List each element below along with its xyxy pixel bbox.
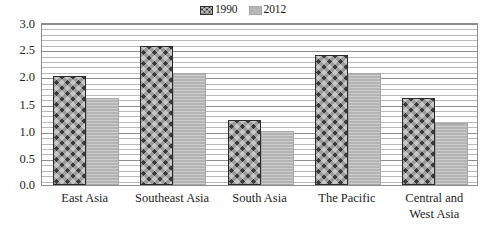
- bar-group: [228, 24, 294, 185]
- x-tick-label: The Pacific: [303, 190, 390, 206]
- bar-1990[interactable]: [53, 76, 86, 185]
- y-tick-label: 1.0: [19, 125, 35, 138]
- y-tick-label: 0.5: [19, 153, 35, 166]
- y-tick-label: 1.5: [19, 98, 35, 111]
- bar-2012[interactable]: [261, 131, 294, 185]
- bar-group: [315, 24, 381, 185]
- bar-2012[interactable]: [435, 123, 468, 185]
- y-tick-label: 2.5: [19, 44, 35, 57]
- bar-2012[interactable]: [173, 73, 206, 185]
- bars-layer: [42, 24, 477, 185]
- plot-area: [41, 23, 478, 186]
- bar-2012[interactable]: [86, 98, 119, 185]
- legend-label-2012: 2012: [264, 4, 287, 16]
- x-tick-label: South Asia: [216, 190, 303, 206]
- bar-2012[interactable]: [348, 73, 381, 185]
- bar-1990[interactable]: [140, 46, 173, 185]
- bar-group: [140, 24, 206, 185]
- y-tick-label: 0.0: [19, 179, 35, 192]
- bar-group: [53, 24, 119, 185]
- legend-item-2012[interactable]: 2012: [249, 4, 287, 16]
- legend-swatch-1990-icon: [200, 6, 213, 15]
- y-axis: 3.02.52.01.51.00.50.0: [0, 23, 38, 186]
- bar-group: [402, 24, 468, 185]
- legend-label-1990: 1990: [215, 4, 238, 16]
- chart-legend: 1990 2012: [0, 2, 486, 18]
- x-tick-label: Central and West Asia: [391, 190, 478, 222]
- y-tick-label: 2.0: [19, 71, 35, 84]
- y-tick-label: 3.0: [19, 18, 35, 31]
- legend-item-1990[interactable]: 1990: [200, 4, 238, 16]
- bar-1990[interactable]: [402, 98, 435, 185]
- x-tick-label: Southeast Asia: [128, 190, 215, 206]
- legend-swatch-2012-icon: [249, 6, 262, 15]
- bar-1990[interactable]: [315, 55, 348, 185]
- x-axis: East AsiaSoutheast AsiaSouth AsiaThe Pac…: [41, 190, 478, 233]
- x-tick-label: East Asia: [41, 190, 128, 206]
- gridline-major: [42, 185, 477, 186]
- bar-1990[interactable]: [228, 120, 261, 185]
- grouped-bar-chart: 1990 2012 3.02.52.01.51.00.50.0 East Asi…: [0, 0, 486, 233]
